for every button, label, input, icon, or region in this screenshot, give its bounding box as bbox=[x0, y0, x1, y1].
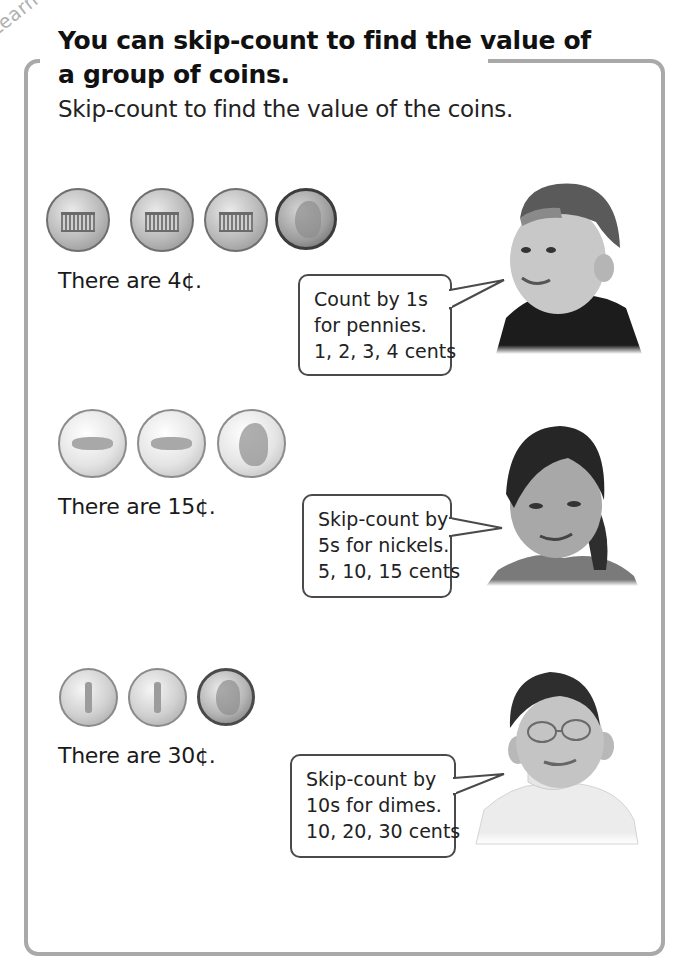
amount-statement: There are 15¢. bbox=[58, 494, 215, 519]
speech-bubble: Skip-count by 5s for nickels. 5, 10, 15 … bbox=[302, 494, 452, 598]
bubble-line: for pennies. bbox=[314, 312, 436, 338]
boy-with-glasses-photo bbox=[470, 670, 642, 846]
dime-back-icon bbox=[128, 668, 187, 727]
title-line-1: You can skip-count to find the value of bbox=[58, 24, 591, 58]
speech-bubble: Skip-count by 10s for dimes. 10, 20, 30 … bbox=[290, 754, 456, 858]
bubble-line: 5, 10, 15 cents bbox=[318, 558, 436, 584]
instruction: Skip-count to find the value of the coin… bbox=[58, 96, 513, 122]
nickel-back-icon bbox=[137, 409, 206, 478]
penny-front-icon bbox=[275, 188, 337, 250]
bubble-line: Skip-count by bbox=[318, 506, 436, 532]
amount-statement: There are 30¢. bbox=[58, 743, 215, 768]
bubble-line: 10s for dimes. bbox=[306, 792, 440, 818]
amount-statement: There are 4¢. bbox=[58, 268, 202, 293]
title-line-2: a group of coins. bbox=[58, 58, 591, 92]
boy-with-cap-photo bbox=[496, 178, 644, 358]
penny-back-icon bbox=[46, 188, 110, 252]
dime-back-icon bbox=[59, 668, 118, 727]
bubble-line: 1, 2, 3, 4 cents bbox=[314, 338, 436, 364]
nickel-front-icon bbox=[217, 409, 286, 478]
dime-front-icon bbox=[197, 668, 255, 726]
bubble-line: Skip-count by bbox=[306, 766, 440, 792]
nickel-back-icon bbox=[58, 409, 127, 478]
girl-smiling-photo bbox=[484, 420, 640, 590]
bubble-line: 5s for nickels. bbox=[318, 532, 436, 558]
penny-back-icon bbox=[204, 188, 268, 252]
bubble-line: 10, 20, 30 cents bbox=[306, 818, 440, 844]
penny-back-icon bbox=[130, 188, 194, 252]
bubble-line: Count by 1s bbox=[314, 286, 436, 312]
speech-bubble: Count by 1s for pennies. 1, 2, 3, 4 cent… bbox=[298, 274, 452, 376]
lesson-title: You can skip-count to find the value of … bbox=[58, 24, 591, 92]
learn-tag: Learn bbox=[0, 0, 42, 40]
